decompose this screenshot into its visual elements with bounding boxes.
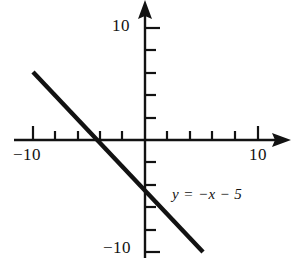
line-equation-annotation: y = −x − 5 <box>172 186 242 203</box>
y-axis-label-negative-10: −10 <box>103 238 131 258</box>
x-axis-label-10: 10 <box>249 145 267 165</box>
y-axis-label-10: 10 <box>112 16 130 36</box>
coordinate-plane-svg <box>0 0 292 271</box>
graph-figure: 10 −10 10 −10 y = −x − 5 <box>0 0 292 271</box>
x-axis-label-negative-10: −10 <box>13 145 41 165</box>
line-series-y-eq-neg-x-minus-5 <box>33 72 203 252</box>
